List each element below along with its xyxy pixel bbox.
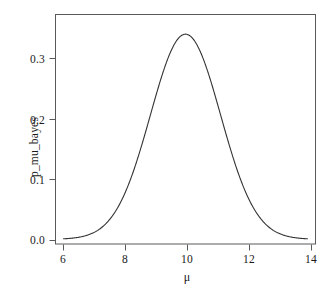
y-axis-ticks xyxy=(50,59,56,241)
y-axis-label: p_mu_bayes xyxy=(28,117,40,177)
figure-canvas: 0.0 0.1 0.2 0.3 6 8 10 12 14 p_mu_bayes … xyxy=(0,0,330,294)
plot-svg xyxy=(0,0,330,294)
x-axis-label: μ xyxy=(184,270,190,285)
y-tick-label-0: 0.0 xyxy=(10,234,45,246)
x-tick-label-2: 10 xyxy=(181,253,193,265)
x-tick-label-4: 14 xyxy=(305,253,317,265)
x-tick-label-1: 8 xyxy=(122,253,128,265)
y-tick-label-3: 0.3 xyxy=(10,53,45,65)
plot-frame xyxy=(56,15,316,245)
x-tick-label-0: 6 xyxy=(60,253,66,265)
x-axis-ticks xyxy=(64,245,312,251)
density-curve xyxy=(64,34,308,239)
x-tick-label-3: 12 xyxy=(243,253,255,265)
